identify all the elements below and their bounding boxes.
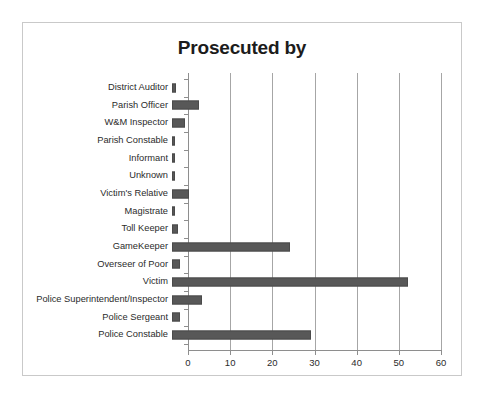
- category-label: W&M Inspector: [23, 118, 172, 127]
- bar-track: [172, 203, 425, 221]
- bar-row: Police Constable: [23, 326, 461, 344]
- bar-row: Parish Constable: [23, 132, 461, 150]
- value-tick-label: 20: [257, 357, 287, 368]
- bar-track: [172, 220, 425, 238]
- value-tick-label: 30: [300, 357, 330, 368]
- value-tick-30: [315, 350, 316, 355]
- value-tick-20: [272, 350, 273, 355]
- category-label: Police Constable: [23, 330, 172, 339]
- category-label: Overseer of Poor: [23, 260, 172, 269]
- bar-track: [172, 79, 425, 97]
- bar-row: Parish Officer: [23, 97, 461, 115]
- bar-rows: District AuditorParish OfficerW&M Inspec…: [23, 79, 461, 344]
- bar[interactable]: [172, 83, 176, 92]
- category-label: Victim's Relative: [23, 189, 172, 198]
- category-label: Toll Keeper: [23, 224, 172, 233]
- bar-row: District Auditor: [23, 79, 461, 97]
- category-label: Victim: [23, 277, 172, 286]
- bar[interactable]: [172, 101, 199, 110]
- category-label: Parish Constable: [23, 136, 172, 145]
- bar[interactable]: [172, 136, 175, 145]
- bar-track: [172, 114, 425, 132]
- bar-row: Magistrate: [23, 203, 461, 221]
- category-label: Unknown: [23, 171, 172, 180]
- chart-frame: Prosecuted by District AuditorParish Off…: [22, 22, 462, 376]
- bar-row: Victim: [23, 273, 461, 291]
- bar-track: [172, 132, 425, 150]
- value-tick-label: 40: [342, 357, 372, 368]
- bar-row: Unknown: [23, 167, 461, 185]
- bar-track: [172, 238, 425, 256]
- bar-row: GameKeeper: [23, 238, 461, 256]
- category-label: GameKeeper: [23, 242, 172, 251]
- bar[interactable]: [172, 260, 180, 269]
- bar-row: Victim's Relative: [23, 185, 461, 203]
- value-tick-label: 0: [173, 357, 203, 368]
- bar-track: [172, 291, 425, 309]
- value-tick-40: [357, 350, 358, 355]
- bar[interactable]: [172, 119, 185, 128]
- bar-track: [172, 167, 425, 185]
- bar[interactable]: [172, 331, 311, 340]
- bar-row: Overseer of Poor: [23, 256, 461, 274]
- bar-track: [172, 185, 425, 203]
- category-tick: [184, 344, 189, 345]
- bar-row: Informant: [23, 150, 461, 168]
- bar[interactable]: [172, 207, 175, 216]
- bar-row: Police Sergeant: [23, 309, 461, 327]
- bar-track: [172, 326, 425, 344]
- bar-row: W&M Inspector: [23, 114, 461, 132]
- bar[interactable]: [172, 225, 178, 234]
- value-tick-label: 50: [384, 357, 414, 368]
- plot-area: District AuditorParish OfficerW&M Inspec…: [23, 23, 461, 375]
- bar[interactable]: [172, 154, 175, 163]
- bar-track: [172, 150, 425, 168]
- category-label: Magistrate: [23, 207, 172, 216]
- bar[interactable]: [172, 242, 290, 251]
- value-tick-label: 10: [215, 357, 245, 368]
- value-tick-50: [399, 350, 400, 355]
- bar[interactable]: [172, 295, 202, 304]
- bar-row: Toll Keeper: [23, 220, 461, 238]
- bar[interactable]: [172, 189, 189, 198]
- value-tick-0: [188, 350, 189, 355]
- value-tick-10: [230, 350, 231, 355]
- bar[interactable]: [172, 278, 408, 287]
- bar-track: [172, 256, 425, 274]
- category-label: Informant: [23, 154, 172, 163]
- bar-row: Police Superintendent/Inspector: [23, 291, 461, 309]
- category-label: District Auditor: [23, 83, 172, 92]
- category-label: Police Sergeant: [23, 313, 172, 322]
- value-tick-60: [441, 350, 442, 355]
- chart-page: Prosecuted by District AuditorParish Off…: [0, 0, 485, 395]
- bar[interactable]: [172, 313, 180, 322]
- category-label: Parish Officer: [23, 101, 172, 110]
- bar-track: [172, 309, 425, 327]
- bar-track: [172, 97, 425, 115]
- bar[interactable]: [172, 172, 175, 181]
- bar-track: [172, 273, 425, 291]
- value-tick-label: 60: [426, 357, 456, 368]
- category-label: Police Superintendent/Inspector: [23, 295, 172, 304]
